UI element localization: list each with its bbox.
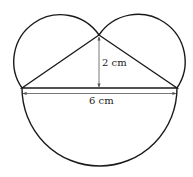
base-label: 6 cm xyxy=(89,95,114,106)
height-label: 2 cm xyxy=(102,57,127,68)
triangle xyxy=(22,35,177,88)
geometry-diagram: 2 cm 6 cm xyxy=(0,0,193,177)
left-semicircle xyxy=(14,15,99,88)
right-semicircle xyxy=(99,14,185,88)
